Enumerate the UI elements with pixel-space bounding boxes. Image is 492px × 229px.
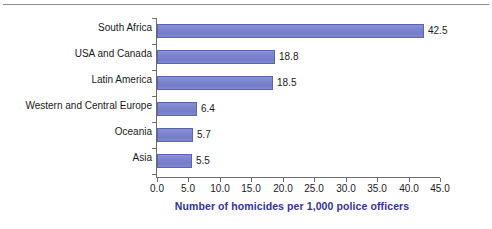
x-axis-tick-label: 35.0 — [367, 183, 386, 194]
bar-western-and-central-europe[interactable] — [157, 102, 197, 116]
y-axis-tick — [152, 174, 157, 175]
top-divider-rule — [3, 4, 489, 5]
bar-value-western-and-central-europe: 6.4 — [201, 102, 215, 116]
x-axis-tick-label: 20.0 — [273, 183, 292, 194]
bar-oceania[interactable] — [157, 128, 193, 142]
x-axis-line — [156, 177, 440, 178]
category-label-asia: Asia — [0, 151, 152, 165]
x-axis-tick — [409, 178, 410, 182]
x-axis-tick — [346, 178, 347, 182]
x-axis-tick — [440, 178, 441, 182]
bar-usa-and-canada[interactable] — [157, 50, 275, 64]
y-axis-tick — [152, 44, 157, 45]
category-label-usa-and-canada: USA and Canada — [0, 47, 152, 61]
y-axis-tick — [152, 70, 157, 71]
bar-value-usa-and-canada: 18.8 — [279, 50, 298, 64]
x-axis-title: Number of homicides per 1,000 police off… — [0, 200, 492, 212]
x-axis-tick — [377, 178, 378, 182]
bar-asia[interactable] — [157, 154, 192, 168]
y-axis-tick — [152, 96, 157, 97]
plot-area: 0.0 5.0 10.0 15.0 20.0 25.0 30.0 35.0 40… — [157, 18, 440, 177]
bar-value-south-africa: 42.5 — [428, 24, 447, 38]
x-axis-tick — [314, 178, 315, 182]
x-axis-tick — [251, 178, 252, 182]
category-label-oceania: Oceania — [0, 125, 152, 139]
bar-south-africa[interactable] — [157, 24, 424, 38]
bar-latin-america[interactable] — [157, 76, 273, 90]
category-label-western-and-central-europe: Western and Central Europe — [0, 99, 152, 113]
x-axis-tick-label: 15.0 — [241, 183, 260, 194]
x-axis-tick-label: 10.0 — [210, 183, 229, 194]
x-axis-tick — [188, 178, 189, 182]
y-axis-tick — [152, 122, 157, 123]
x-axis-tick-label: 5.0 — [181, 183, 195, 194]
bar-value-oceania: 5.7 — [197, 128, 211, 142]
y-axis-tick — [152, 148, 157, 149]
x-axis-tick-label: 45.0 — [430, 183, 449, 194]
x-axis-tick-label: 0.0 — [150, 183, 164, 194]
x-axis-tick — [220, 178, 221, 182]
x-axis-tick — [157, 178, 158, 182]
chart-figure: South Africa USA and Canada Latin Americ… — [0, 0, 492, 229]
x-axis-tick-label: 25.0 — [304, 183, 323, 194]
x-axis-tick — [283, 178, 284, 182]
x-axis-tick-label: 30.0 — [336, 183, 355, 194]
y-axis-tick — [152, 18, 157, 19]
bar-value-latin-america: 18.5 — [277, 76, 296, 90]
bar-value-asia: 5.5 — [196, 154, 210, 168]
x-axis-tick-label: 40.0 — [399, 183, 418, 194]
x-axis-title-text: Number of homicides per 1,000 police off… — [175, 200, 409, 212]
category-label-south-africa: South Africa — [0, 21, 152, 35]
category-label-latin-america: Latin America — [0, 73, 152, 87]
